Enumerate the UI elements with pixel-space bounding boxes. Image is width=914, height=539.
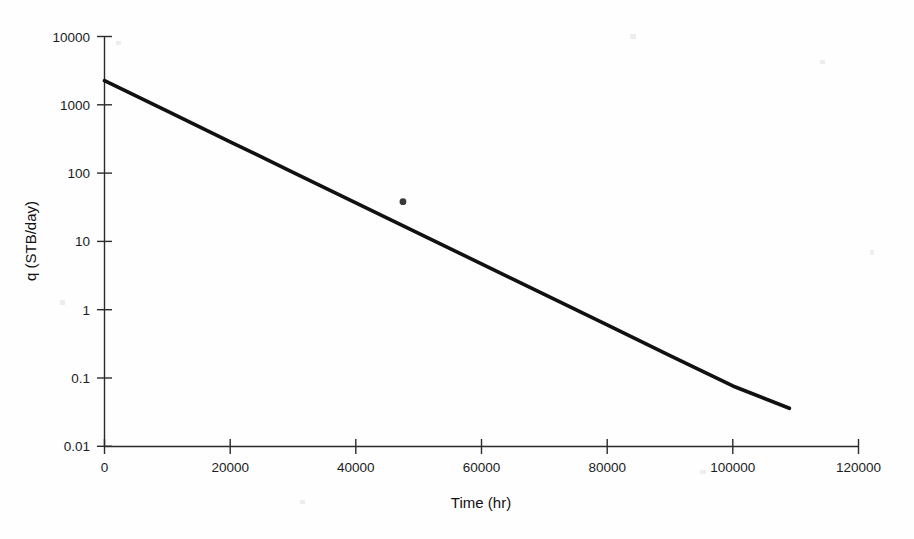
x-tick-label-20000: 20000 xyxy=(211,460,249,475)
x-tick-label-120000: 120000 xyxy=(836,460,881,475)
y-tick-label-10: 10 xyxy=(75,234,90,249)
x-tick-label-40000: 40000 xyxy=(337,460,375,475)
chart-figure: 10000 1000 100 10 1 0.1 0.01 0 20000 400… xyxy=(0,0,914,539)
data-point-observed-point xyxy=(400,198,407,205)
y-tick-label-0.1: 0.1 xyxy=(71,371,90,386)
x-axis-title: Time (hr) xyxy=(451,494,511,511)
x-tick-label-0: 0 xyxy=(101,460,109,475)
x-tick-label-80000: 80000 xyxy=(588,460,626,475)
decline-curve-chart: 10000 1000 100 10 1 0.1 0.01 0 20000 400… xyxy=(0,0,914,539)
x-tick-label-100000: 100000 xyxy=(710,460,755,475)
x-tick-label-60000: 60000 xyxy=(463,460,501,475)
y-axis-title: q (STB/day) xyxy=(22,201,39,281)
y-tick-label-1: 1 xyxy=(82,303,90,318)
y-tick-label-1000: 1000 xyxy=(60,98,90,113)
y-tick-label-10000: 10000 xyxy=(52,30,90,45)
y-tick-label-0.01: 0.01 xyxy=(64,439,90,454)
y-tick-label-100: 100 xyxy=(67,166,90,181)
chart-background xyxy=(0,0,914,539)
